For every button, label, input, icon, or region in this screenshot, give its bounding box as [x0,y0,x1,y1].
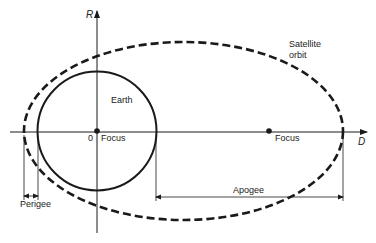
secondary-focus-label: Focus [275,133,300,143]
primary-focus-label: Focus [101,133,126,143]
orbit-diagram: R D 0 Earth Satellite orbit Focus Focus … [0,0,376,243]
axis-label-r: R [86,9,93,20]
satellite-orbit-ellipse [24,42,343,220]
orbit-label-line2: orbit [289,50,307,60]
orbit-label-line1: Satellite [289,39,321,49]
apogee-label: Apogee [233,185,264,195]
secondary-focus-dot [266,128,272,134]
earth-label: Earth [111,95,133,105]
perigee-label: Perigee [20,199,51,209]
origin-label: 0 [88,133,93,143]
axis-label-d: D [358,136,365,147]
primary-focus-dot [94,128,100,134]
